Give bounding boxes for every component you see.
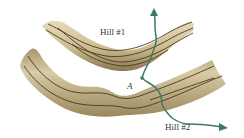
topographic-diagram: Hill #1 A Hill #2 [0, 0, 244, 138]
arrow-up-icon [150, 8, 158, 16]
point-a-marker [140, 76, 144, 80]
point-a-label: A [126, 81, 133, 91]
arrow-right-icon [219, 123, 228, 131]
hill-2-label: Hill #2 [165, 122, 190, 132]
hill-1-label: Hill #1 [100, 27, 125, 37]
